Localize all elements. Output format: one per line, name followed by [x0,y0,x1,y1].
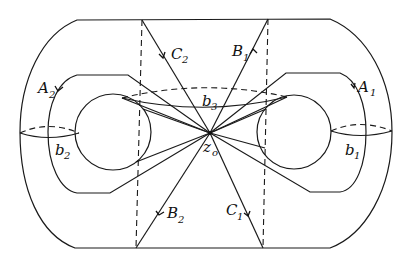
c2-ray [142,20,210,133]
label-c1: C 1 [226,201,243,222]
label-b1: B 1 [231,42,249,63]
b3-left-ray [143,109,210,133]
surface-diagram: C 2 B 1 A 2 A 1 b 3 b 2 b 1 z o B 2 C 1 [0,0,407,265]
base-point [208,131,212,135]
svg-text:A: A [356,78,369,96]
svg-text:2: 2 [63,150,70,161]
svg-text:1: 1 [237,211,243,222]
svg-text:B: B [166,204,178,222]
right-inner-track [210,73,366,192]
label-b2-loop: B 2 [166,204,184,225]
label-b1-meridian: b 1 [345,141,360,161]
b2-ray [136,133,210,248]
b2-front [20,133,79,138]
svg-text:2: 2 [177,214,184,225]
svg-text:z: z [202,138,211,156]
svg-text:2: 2 [48,89,55,100]
b2-back [20,127,79,134]
arrow-b1 [250,49,257,54]
svg-text:B: B [231,42,243,60]
label-z0: z o [202,138,218,158]
right-dashed-vertical [263,19,268,248]
label-b2: b 2 [55,141,70,161]
svg-text:o: o [212,147,218,158]
svg-text:1: 1 [354,150,360,161]
svg-text:1: 1 [243,52,249,63]
label-b3: b 3 [202,92,217,112]
label-a1: A 1 [356,78,376,98]
left-dashed-vertical [136,20,142,248]
label-c2: C 2 [171,45,188,65]
svg-text:1: 1 [370,87,376,98]
b1-ray [210,19,268,133]
b1-front [331,131,392,136]
svg-text:2: 2 [181,54,188,65]
svg-text:3: 3 [211,101,217,112]
b1-back [331,125,392,132]
label-a2: A 2 [36,79,55,100]
svg-text:A: A [36,79,49,97]
